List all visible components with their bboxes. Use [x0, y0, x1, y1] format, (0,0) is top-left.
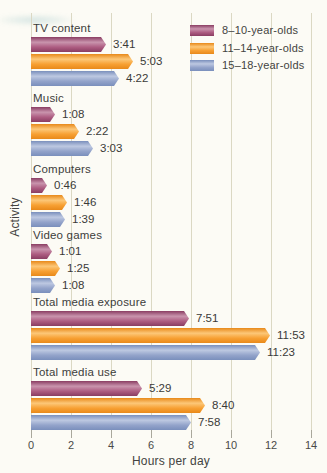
axis-tick [311, 430, 312, 438]
axis-tick [191, 430, 192, 438]
x-tick-label: 12 [256, 439, 286, 451]
legend-label: 11–14-year-olds [222, 42, 304, 54]
x-tick-label: 10 [216, 439, 246, 451]
axis-tick [71, 430, 72, 438]
bar [31, 178, 47, 193]
value-label: 1:39 [72, 212, 94, 227]
category-label: Music [33, 92, 64, 104]
bar [31, 141, 93, 156]
category-label: Video games [33, 229, 102, 241]
value-label: 11:23 [267, 345, 295, 360]
bar [31, 107, 55, 122]
x-tick-label: 14 [296, 439, 326, 451]
y-axis-title: Activity [8, 187, 22, 247]
value-label: 11:53 [277, 328, 305, 343]
value-label: 2:22 [86, 124, 108, 139]
value-label: 3:03 [100, 141, 122, 156]
gridline [191, 13, 192, 433]
x-axis-title: Hours per day [111, 454, 231, 468]
value-label: 3:41 [113, 37, 135, 52]
x-tick-label: 2 [56, 439, 86, 451]
legend-label: 8–10-year-olds [222, 24, 298, 36]
bar [31, 345, 260, 360]
legend-swatch [190, 43, 214, 54]
x-tick-label: 6 [136, 439, 166, 451]
bar [31, 278, 55, 293]
value-label: 0:46 [54, 178, 76, 193]
bar [31, 261, 60, 276]
gridline [151, 13, 152, 433]
legend-swatch [190, 25, 214, 36]
gridline [271, 13, 272, 433]
bar [31, 212, 65, 227]
value-label: 8:40 [212, 398, 234, 413]
bar [31, 37, 106, 52]
value-label: 1:46 [74, 195, 96, 210]
axis-tick [231, 430, 232, 438]
category-label: Total media exposure [33, 296, 146, 308]
value-label: 5:03 [140, 54, 162, 69]
x-tick-label: 8 [176, 439, 206, 451]
axis-tick [151, 430, 152, 438]
x-tick-label: 0 [16, 439, 46, 451]
value-label: 1:01 [59, 244, 81, 259]
value-label: 1:08 [62, 278, 84, 293]
bar [31, 381, 142, 396]
category-label: Total media use [33, 366, 117, 378]
media-hours-bar-chart: 02468101214TV content3:415:034:22Music1:… [0, 0, 327, 473]
gridline [231, 13, 232, 433]
bar [31, 311, 189, 326]
category-label: TV content [33, 22, 91, 34]
bar [31, 415, 191, 430]
bar [31, 328, 270, 343]
category-label: Computers [33, 163, 91, 175]
axis-tick [111, 430, 112, 438]
bar [31, 195, 67, 210]
x-tick-label: 4 [96, 439, 126, 451]
axis-tick [271, 430, 272, 438]
gridline [311, 13, 312, 433]
value-label: 7:51 [196, 311, 218, 326]
bar [31, 54, 133, 69]
value-label: 1:25 [67, 261, 89, 276]
value-label: 4:22 [126, 71, 148, 86]
legend-label: 15–18-year-olds [222, 59, 305, 71]
axis-tick [31, 430, 32, 438]
bar [31, 398, 205, 413]
bar [31, 71, 119, 86]
legend-swatch [190, 60, 214, 71]
bar [31, 124, 79, 139]
bar [31, 244, 52, 259]
value-label: 7:58 [198, 415, 220, 430]
value-label: 5:29 [149, 381, 171, 396]
value-label: 1:08 [62, 107, 84, 122]
